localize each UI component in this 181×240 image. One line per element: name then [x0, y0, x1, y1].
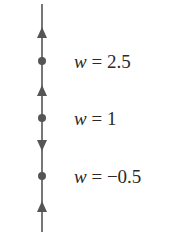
equals-sign: = — [87, 108, 107, 129]
arrow-up-icon — [37, 201, 47, 212]
arrow-up-icon — [37, 27, 47, 38]
equilibrium-label: w = −0.5 — [74, 167, 141, 186]
value: 2.5 — [107, 51, 131, 72]
value: 1 — [107, 108, 117, 129]
arrow-down-icon — [37, 140, 47, 151]
variable: w — [74, 51, 87, 72]
value: −0.5 — [107, 166, 141, 187]
arrow-up-icon — [37, 85, 47, 96]
variable: w — [74, 166, 87, 187]
equilibrium-label: w = 2.5 — [74, 52, 131, 71]
variable: w — [74, 108, 87, 129]
equals-sign: = — [87, 166, 107, 187]
equals-sign: = — [87, 51, 107, 72]
equilibrium-point — [38, 114, 46, 122]
equilibrium-point — [38, 57, 46, 65]
equilibrium-point — [38, 172, 46, 180]
equilibrium-label: w = 1 — [74, 109, 116, 128]
